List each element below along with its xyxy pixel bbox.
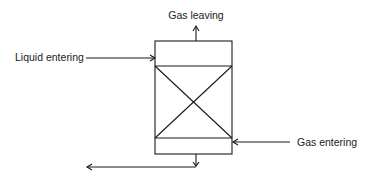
liquid-leaving-stream xyxy=(87,154,199,170)
liquid-entering-stream: Liquid entering xyxy=(15,51,155,63)
liquid-entering-label: Liquid entering xyxy=(15,51,84,63)
column-vessel xyxy=(155,41,232,154)
gas-entering-label: Gas entering xyxy=(297,136,357,148)
gas-entering-stream: Gas entering xyxy=(233,136,357,148)
gas-leaving-label: Gas leaving xyxy=(168,9,224,21)
packed-column-diagram: Gas leaving Liquid entering Gas entering xyxy=(0,0,370,179)
gas-leaving-stream: Gas leaving xyxy=(168,9,224,41)
column-outline xyxy=(155,41,232,154)
packing-section-cross xyxy=(155,66,232,138)
